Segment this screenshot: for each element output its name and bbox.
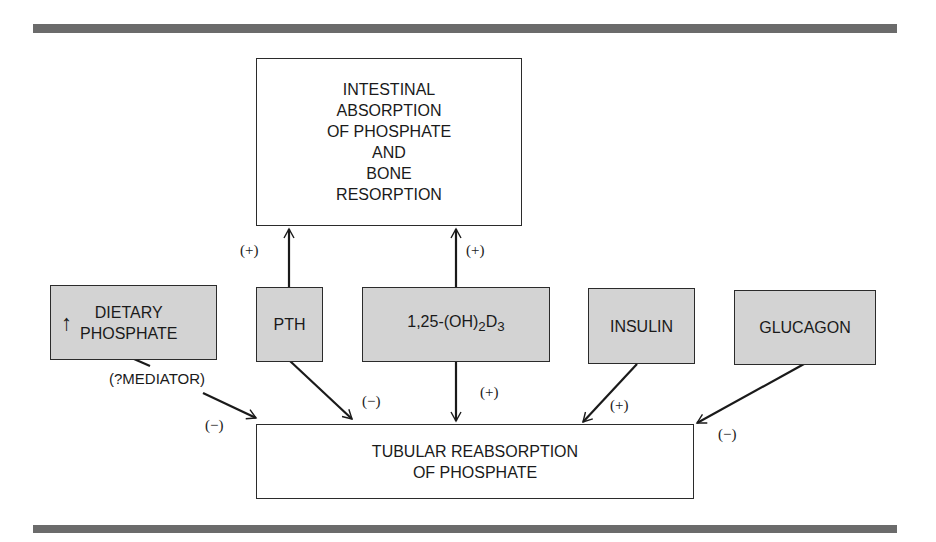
sign-vitd-intestinal: (+) bbox=[466, 242, 484, 259]
sign-vitd-tubular: (+) bbox=[480, 384, 498, 401]
intestinal-absorption-box: INTESTINAL ABSORPTION OF PHOSPHATE AND B… bbox=[256, 58, 522, 226]
arrow-glucagon-to-tubular bbox=[697, 364, 804, 423]
tubular-reabsorption-box: TUBULAR REABSORPTION OF PHOSPHATE bbox=[256, 424, 694, 499]
dietary-phosphate-label: DIETARY PHOSPHATE bbox=[80, 302, 178, 344]
insulin-box: INSULIN bbox=[588, 288, 695, 364]
sign-glucagon-tubular: (−) bbox=[718, 426, 736, 443]
arrow-pth-to-tubular bbox=[290, 361, 352, 419]
arrow-dietary-to-tubular bbox=[203, 393, 256, 418]
sign-insulin-tubular: (+) bbox=[610, 397, 628, 414]
vitamin-d-box: 1,25-(OH)2D3 bbox=[362, 287, 550, 362]
dietary-phosphate-box: ↑ DIETARY PHOSPHATE bbox=[50, 285, 217, 360]
glucagon-label: GLUCAGON bbox=[759, 317, 851, 338]
increase-arrow-icon: ↑ bbox=[61, 312, 72, 333]
sign-dietary-tubular: (−) bbox=[205, 417, 223, 434]
pth-label: PTH bbox=[274, 314, 306, 335]
pth-box: PTH bbox=[256, 287, 323, 362]
vitamin-d-label: 1,25-(OH)2D3 bbox=[407, 311, 505, 337]
mediator-note: (?MEDIATOR) bbox=[109, 370, 205, 387]
insulin-label: INSULIN bbox=[610, 316, 673, 337]
glucagon-box: GLUCAGON bbox=[734, 290, 876, 365]
intestinal-absorption-label: INTESTINAL ABSORPTION OF PHOSPHATE AND B… bbox=[327, 79, 451, 205]
tubular-reabsorption-label: TUBULAR REABSORPTION OF PHOSPHATE bbox=[372, 441, 578, 483]
sign-pth-intestinal: (+) bbox=[240, 242, 258, 259]
sign-pth-tubular: (−) bbox=[362, 393, 380, 410]
line-dietary-stub bbox=[134, 359, 150, 366]
